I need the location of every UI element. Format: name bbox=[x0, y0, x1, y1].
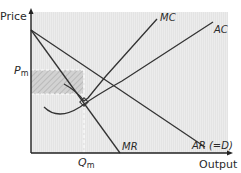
mc-label: MC bbox=[160, 12, 176, 23]
y-axis-arrow-icon bbox=[29, 8, 34, 14]
mr-label: MR bbox=[122, 141, 138, 152]
chart-svg: Price Output Pm Qm MC AC MR AR (=D) bbox=[0, 0, 241, 173]
ac-label: AC bbox=[213, 24, 228, 35]
x-axis-arrow-icon bbox=[227, 151, 233, 156]
y-axis-label: Price bbox=[0, 10, 27, 23]
ar-label: AR (=D) bbox=[191, 140, 233, 151]
qm-label: Qm bbox=[78, 156, 95, 170]
x-axis-label: Output bbox=[199, 158, 238, 171]
pm-label: Pm bbox=[14, 64, 29, 78]
